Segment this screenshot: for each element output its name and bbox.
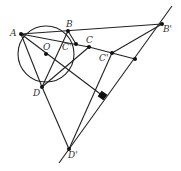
label-Cp: C' (62, 42, 71, 52)
label-C: C (86, 35, 93, 45)
label-D: D (32, 88, 40, 98)
line-A-Bprime (21, 24, 162, 34)
point-D (40, 85, 44, 89)
label-Dp: D' (67, 150, 78, 160)
line-D-Dp (42, 87, 69, 149)
geometry-diagram: A B C' C O D B' C' D' (0, 0, 181, 171)
point-Cpp (110, 51, 114, 55)
point-A (19, 32, 23, 36)
label-B: B (65, 19, 73, 29)
label-Bp: B' (162, 24, 172, 34)
point-C (87, 45, 91, 49)
point-E (133, 57, 137, 61)
label-O: O (43, 42, 51, 52)
line-C-D (42, 47, 89, 87)
line-Cpp-E (112, 53, 135, 59)
right-angle-marker (98, 91, 108, 101)
line-Bp-Cpp (112, 24, 162, 53)
diagram-canvas: A B C' C O D B' C' D' (0, 0, 181, 171)
line-B-D (42, 31, 68, 87)
point-B (66, 29, 70, 33)
point-Cp (74, 42, 78, 46)
label-A: A (9, 28, 17, 38)
line-Cpp-Dp (69, 53, 112, 149)
label-Cpp: C' (99, 53, 108, 63)
line-Bp-Dp (59, 6, 172, 163)
line-A-Cpp (21, 34, 89, 47)
point-O (44, 52, 48, 56)
